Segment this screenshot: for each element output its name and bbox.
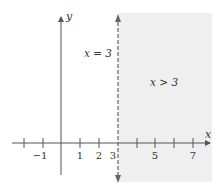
tick-label: 7	[190, 150, 196, 161]
inequality-graph: y x −1 1 2 3 5 7 x = 3 x > 3	[0, 0, 222, 186]
region-label: x > 3	[150, 76, 178, 88]
tick-label: 1	[77, 150, 83, 161]
shaded-region	[118, 13, 212, 182]
tick-label: −1	[33, 150, 48, 161]
tick-label: 2	[96, 150, 102, 161]
boundary-label: x = 3	[84, 47, 112, 59]
tick-label: 5	[152, 150, 158, 161]
x-axis-label: x	[205, 128, 212, 141]
tick-label: 3	[110, 150, 116, 161]
y-axis-label: y	[65, 10, 73, 23]
